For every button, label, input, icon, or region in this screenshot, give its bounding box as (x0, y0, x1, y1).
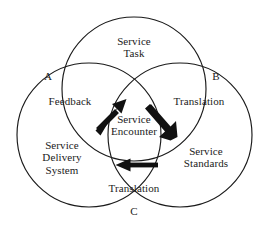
region-label-translation-right: Translation (174, 95, 225, 107)
region-label-translation-bottom: Translation (109, 182, 160, 194)
region-label-service-delivery-system: Service Delivery System (42, 139, 81, 176)
intersection-label-c: C (130, 205, 137, 217)
intersection-label-b: B (212, 70, 219, 82)
region-label-feedback: Feedback (49, 95, 92, 107)
region-label-service-task: Service Task (117, 35, 151, 60)
intersection-label-a: A (44, 70, 52, 82)
venn-diagram: Service Task Feedback Translation Servic… (0, 0, 267, 229)
region-label-service-encounter: Service Encounter (111, 113, 157, 138)
region-label-service-standards: Service Standards (184, 145, 228, 170)
